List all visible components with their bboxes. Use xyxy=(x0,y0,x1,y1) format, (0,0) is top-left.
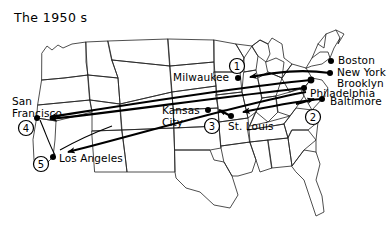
city-label-san-francisco: San Francisco xyxy=(12,96,62,119)
route-line-sf-la-link xyxy=(40,120,55,155)
route-line-new-york-milwaukee xyxy=(250,71,330,77)
city-dot-kansas-city xyxy=(205,107,211,113)
numbered-marker-5[interactable]: 5 xyxy=(34,157,49,172)
numbered-marker-1-label: 1 xyxy=(234,61,240,72)
city-dot-los-angeles xyxy=(50,154,56,160)
numbered-marker-3[interactable]: 3 xyxy=(205,119,220,134)
numbered-marker-2[interactable]: 2 xyxy=(306,110,321,125)
city-label-kansas-city: Kansas City xyxy=(162,105,200,128)
city-label-boston: Boston xyxy=(338,55,375,66)
city-label-baltimore: Baltimore xyxy=(330,96,382,107)
numbered-marker-4[interactable]: 4 xyxy=(19,121,34,136)
numbered-marker-4-label: 4 xyxy=(23,123,29,134)
city-label-los-angeles: Los Angeles xyxy=(59,153,123,164)
map-figure: The 1950 s xyxy=(0,0,390,241)
city-dot-philadelphia xyxy=(301,85,307,91)
city-dot-brooklyn xyxy=(308,77,315,84)
city-dot-st-louis xyxy=(228,113,234,119)
city-label-milwaukee: Milwaukee xyxy=(173,72,229,83)
city-label-st-louis: St. Louis xyxy=(228,121,274,132)
city-dot-milwaukee xyxy=(235,75,241,81)
numbered-marker-5-label: 5 xyxy=(38,159,44,170)
city-dot-boston xyxy=(328,58,334,64)
numbered-marker-1[interactable]: 1 xyxy=(230,59,245,74)
numbered-marker-2-label: 2 xyxy=(310,112,316,123)
city-dot-new-york xyxy=(327,70,333,76)
numbered-marker-3-label: 3 xyxy=(209,121,215,132)
